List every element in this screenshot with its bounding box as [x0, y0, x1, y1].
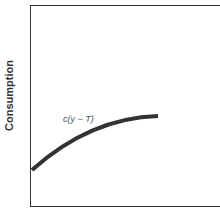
curve-label: c(y − T)	[63, 114, 94, 124]
chart-canvas: c(y − T)	[0, 0, 220, 223]
consumption-curve	[32, 116, 158, 170]
